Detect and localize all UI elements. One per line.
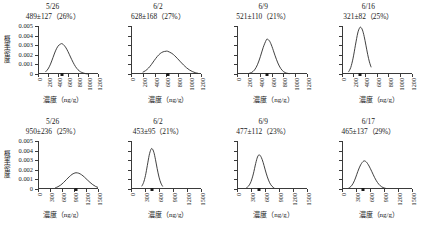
x-axis-tick	[131, 189, 132, 192]
x-axis-tick-label: 1500	[306, 193, 312, 205]
x-axis-tick-label: 1000	[294, 78, 300, 90]
x-axis-tick-label: 900	[278, 193, 284, 202]
x-axis-tick-label: 1200	[411, 78, 417, 90]
x-axis-tick-label: 1200	[200, 78, 206, 90]
x-axis-tick	[365, 74, 366, 77]
x-axis-tick-label: 600	[158, 193, 164, 202]
distribution-panel: 6/9477±112（23%）030060090012001500濃度（ng/g…	[211, 115, 316, 230]
panel-title: 6/2	[105, 3, 210, 10]
panel-title: 6/9	[211, 118, 316, 125]
x-axis-tick	[201, 189, 202, 192]
x-axis-tick	[384, 189, 385, 192]
x-axis-label: 濃度（ng/g）	[26, 212, 100, 219]
x-axis-label: 濃度（ng/g）	[131, 212, 205, 219]
x-axis-tick-label: 600	[376, 78, 382, 87]
panel-statistics: 477±112（23%）	[211, 128, 316, 135]
x-axis-tick	[173, 189, 174, 192]
x-axis-tick-label: 1200	[397, 193, 403, 205]
panel-statistics: 628±168（27%）	[105, 13, 210, 20]
x-axis-label: 濃度（ng/g）	[342, 97, 416, 104]
plot-area: 00.0010.0020.0030.0040.00503006009001200…	[38, 141, 98, 189]
x-axis-tick-label: 800	[388, 78, 394, 87]
x-axis-tick-label: 900	[383, 193, 389, 202]
x-axis-tick	[400, 74, 401, 77]
x-axis-tick-label: 1200	[85, 193, 91, 205]
x-axis-tick-label: 200	[47, 78, 53, 87]
x-axis-tick-label: 600	[264, 193, 270, 202]
x-axis-tick	[58, 74, 59, 77]
x-axis-tick-label: 1000	[399, 78, 405, 90]
x-axis-tick-label: 300	[144, 193, 150, 202]
x-axis-tick	[272, 74, 273, 77]
mean-marker	[362, 188, 365, 191]
panel-statistics: 521±110（21%）	[211, 13, 316, 20]
density-curve	[342, 141, 412, 189]
panel-statistics: 465±137（29%）	[316, 128, 421, 135]
x-axis-tick	[295, 74, 296, 77]
x-axis-tick-label: 1000	[87, 78, 93, 90]
x-axis-tick	[50, 189, 51, 192]
x-axis-tick	[342, 189, 343, 192]
distribution-panel: 6/2628±168（27%）020040060080010001200濃度（n…	[105, 0, 210, 115]
density-curve	[342, 26, 412, 74]
x-axis-tick	[178, 74, 179, 77]
x-axis-label: 濃度（ng/g）	[342, 212, 416, 219]
x-axis-tick	[88, 74, 89, 77]
x-axis-tick-label: 600	[165, 78, 171, 87]
x-axis-tick-label: 0	[341, 193, 347, 196]
x-axis-tick-label: 600	[271, 78, 277, 87]
x-axis-tick-label: 1200	[306, 78, 312, 90]
x-axis-tick	[48, 74, 49, 77]
y-axis-tick-label: 0.005	[19, 23, 33, 29]
density-curve	[38, 26, 98, 74]
x-axis-tick-label: 600	[369, 193, 375, 202]
panel-title: 5/26	[0, 118, 105, 125]
x-axis-label: 濃度（ng/g）	[237, 212, 311, 219]
x-axis-tick-label: 1000	[189, 78, 195, 90]
x-axis-tick-label: 0	[130, 193, 136, 196]
y-axis-tick-label: 0.004	[19, 32, 33, 38]
plot-area: 020040060080010001200	[131, 26, 201, 74]
x-axis-tick	[251, 189, 252, 192]
x-axis-tick-label: 300	[250, 193, 256, 202]
y-axis-tick-label: 0.004	[19, 147, 33, 153]
x-axis-tick-label: 800	[77, 78, 83, 87]
x-axis-tick	[187, 189, 188, 192]
x-axis-tick-label: 600	[67, 78, 73, 87]
x-axis-tick	[377, 74, 378, 77]
x-axis-tick	[237, 74, 238, 77]
x-axis-tick-label: 200	[247, 78, 253, 87]
x-axis-tick-label: 800	[177, 78, 183, 87]
mean-marker	[61, 73, 64, 76]
x-axis-tick	[293, 189, 294, 192]
density-curve	[131, 141, 201, 189]
y-axis-tick-label: 0.003	[19, 157, 33, 163]
plot-area: 030060090012001500	[342, 141, 412, 189]
x-axis-tick	[68, 74, 69, 77]
x-axis-tick-label: 1500	[97, 193, 103, 205]
x-axis-tick-label: 0	[236, 193, 242, 196]
x-axis-tick-label: 300	[49, 193, 55, 202]
x-axis-tick-label: 0	[341, 78, 347, 81]
x-axis-tick	[98, 189, 99, 192]
x-axis-tick	[190, 74, 191, 77]
y-axis-tick-label: 0.002	[19, 167, 33, 173]
x-axis-tick	[98, 74, 99, 77]
x-axis-tick	[78, 74, 79, 77]
x-axis-tick-label: 1200	[186, 193, 192, 205]
panel-statistics: 489±127（26%）	[0, 13, 105, 20]
x-axis-tick-label: 300	[355, 193, 361, 202]
x-axis-tick	[356, 189, 357, 192]
mean-marker	[166, 73, 169, 76]
x-axis-tick	[307, 189, 308, 192]
y-axis-label: 概率密度	[3, 141, 12, 189]
x-axis-tick-label: 0	[37, 78, 43, 81]
x-axis-tick-label: 0	[236, 78, 242, 81]
plot-area: 020040060080010001200	[237, 26, 307, 74]
plot-area: 030060090012001500	[237, 141, 307, 189]
density-curve	[38, 141, 98, 189]
x-axis-tick	[62, 189, 63, 192]
mean-marker	[359, 73, 362, 76]
y-axis-label: 概率密度	[3, 26, 12, 74]
x-axis-tick	[307, 74, 308, 77]
